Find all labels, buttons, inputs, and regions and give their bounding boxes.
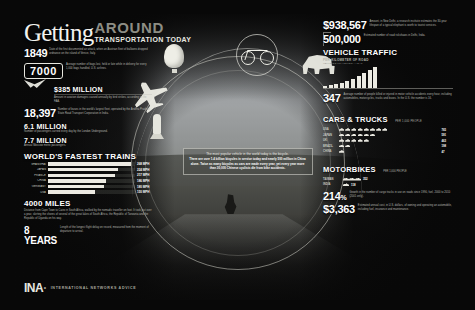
rocket-body [153, 114, 161, 134]
trains-bar-fill [48, 179, 106, 182]
stat-1849-number: 1849 [24, 48, 47, 59]
vehicle-traffic-subtitle: PER KILOMETER OF ROAD [323, 58, 453, 62]
stat-77m-number: 7.7 MILLION [24, 137, 152, 144]
stat-214-unit: % [340, 194, 346, 201]
motorbikes-title: MOTORBIKES [323, 165, 376, 174]
motorbikes-row: INDIA118 [323, 183, 453, 187]
car-icon [358, 134, 363, 137]
bicycle-icon [236, 34, 278, 76]
trains-bar-value: 180 MPH [135, 185, 152, 189]
cars-trucks-icons [339, 134, 440, 137]
trains-bar-value: 268 MPH [135, 162, 152, 166]
cars-trucks-icons [339, 128, 440, 131]
trains-bar-row: FRANCE217 MPH [24, 173, 152, 177]
motorbike-icon [355, 178, 361, 181]
stat-1849: 1849 Date of the first documented air at… [24, 48, 152, 59]
car-icon [370, 134, 375, 137]
trains-bar-row: SHANGHAI268 MPH [24, 162, 152, 166]
rocket-icon [153, 114, 161, 140]
motorbikes-value: 118 [351, 183, 356, 187]
bird-icon [24, 79, 46, 88]
cars-trucks-row: CHINA47 [323, 150, 453, 154]
stat-77-million: 7.7 MILLION Annual Moscow metro passenge… [24, 137, 152, 148]
cars-trucks-icons [339, 145, 440, 148]
trains-bar-label: JAPAN [24, 168, 48, 171]
stat-7000-body: Average number of bags lost, held or lat… [66, 63, 152, 71]
bicycle-frame [244, 50, 267, 60]
stat-500000-number: 500,000 [323, 34, 361, 45]
stat-4000-body: Distance from Cape Town to Cairo in Sout… [24, 209, 152, 221]
cars-trucks-value: 591 [440, 133, 453, 137]
cars-trucks-rows: USA765JAPAN591UK463BRAZIL198CHINA47 [323, 128, 453, 154]
car-icon [339, 134, 344, 137]
trains-bar-row: GERMANY180 MPH [24, 185, 152, 189]
trains-bar-label: CHINA [24, 179, 48, 182]
stat-61m-number: 6.1 MILLION [24, 123, 152, 130]
stat-8-years: 8 YEARS Length of the longest flight del… [24, 226, 152, 246]
trains-bar-row: CHINA186 MPH [24, 179, 152, 183]
trains-bar-value: 217 MPH [135, 173, 152, 177]
motorbike-icon [349, 178, 355, 181]
poster-frame: GettingAROUNDTRANSPORTATION TODAY 1849 D… [14, 14, 461, 300]
car-icon [345, 128, 350, 131]
car-icon [364, 134, 369, 137]
car-icon [339, 150, 344, 153]
cars-trucks-value: 47 [440, 150, 453, 154]
stat-385-rule [54, 94, 152, 95]
trains-bar-row: JAPAN224 MPH [24, 168, 152, 172]
trains-chart-title: WORLD'S FASTEST TRAINS [24, 152, 152, 161]
caption-line-2: There are over 1.4 billion bicycles in s… [188, 157, 308, 171]
trains-bar-track [48, 179, 135, 182]
logo-mark: INA· [24, 281, 47, 295]
car-icon [364, 139, 369, 142]
car-icon [351, 139, 356, 142]
vehicle-traffic-bars [323, 67, 453, 89]
logo-dot: · [43, 281, 47, 295]
cars-trucks-header: CARS & TRUCKS PER 1,000 PEOPLE [323, 108, 453, 126]
vehicle-traffic-bar [345, 81, 349, 88]
vehicle-traffic-title: VEHICLE TRAFFIC [323, 48, 453, 57]
trains-bar-value: 150 MPH [135, 190, 152, 194]
cars-trucks-chart: CARS & TRUCKS PER 1,000 PEOPLE USA765JAP… [323, 108, 453, 154]
vehicle-traffic-bar [373, 67, 377, 88]
cars-trucks-label: USA [323, 128, 339, 131]
vehicle-traffic-bar [329, 85, 333, 88]
trains-bar-track [48, 185, 135, 188]
car-icon [376, 128, 381, 131]
trains-bars: SHANGHAI268 MPHJAPAN224 MPHFRANCE217 MPH… [24, 162, 152, 194]
vehicle-traffic-bar [340, 83, 344, 88]
car-icon [339, 145, 344, 148]
stat-4000-miles: 4000 MILES Distance from Cape Town to Ca… [24, 199, 152, 221]
right-stats-column: $938,567 Amount, in New Delhi, a researc… [323, 20, 453, 217]
stat-1849-body: Date of the first documented air attack,… [49, 48, 152, 56]
trains-bar-fill [48, 168, 118, 171]
vehicle-traffic-bar [362, 73, 366, 88]
stat-938567-number: $938,567 [323, 20, 366, 31]
stat-214-value: 214 [323, 190, 340, 202]
motorbikes-label: INDIA [323, 183, 343, 186]
trains-bar-track [48, 190, 135, 193]
logo-text: INTERNATIONAL NETWORKS ADVICE [51, 286, 137, 290]
stat-18397-body: Number of buses in the world's largest f… [58, 108, 152, 116]
trains-bar-label: USA [24, 191, 48, 194]
motorbikes-value: 352 [363, 177, 368, 181]
balloon-basket [172, 69, 177, 73]
trains-chart: WORLD'S FASTEST TRAINS SHANGHAI268 MPHJA… [24, 152, 152, 195]
trains-bar-fill [48, 174, 115, 177]
trains-bar-value: 186 MPH [135, 179, 152, 183]
vehicle-traffic-bar [351, 79, 355, 88]
trains-bar-track [48, 162, 135, 165]
vehicle-traffic-chart: VEHICLE TRAFFIC PER KILOMETER OF ROAD VE… [323, 48, 453, 89]
trains-bar-label: FRANCE [24, 174, 48, 177]
car-icon [358, 128, 363, 131]
left-stats-column: 1849 Date of the first documented air at… [24, 48, 152, 246]
stat-3363: $3,363 Estimated annual cost, in U.S. do… [323, 204, 453, 215]
stat-18397: 18,397 Number of buses in the world's la… [24, 108, 152, 119]
cars-trucks-value: 765 [440, 128, 453, 132]
car-icon [370, 128, 375, 131]
stat-4000-number: 4000 MILES [24, 199, 152, 208]
stat-7000-plate: 7000 [24, 63, 63, 79]
stat-3363-body: Estimated annual cost, in U.S. dollars, … [358, 204, 453, 212]
stat-347-number: 347 [323, 93, 340, 104]
trains-bar-label: SHANGHAI [24, 163, 48, 166]
